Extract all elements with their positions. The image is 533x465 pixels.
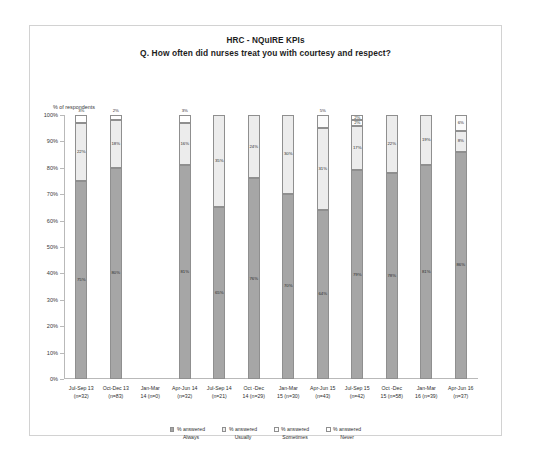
bar-segment-always[interactable]: 81% — [420, 165, 432, 379]
x-axis-category-label: Oct-Dec 13(n=83) — [99, 384, 134, 400]
y-axis-title: % of respondents — [44, 104, 104, 112]
bar-slot: 2%2%17%79% — [340, 115, 375, 379]
bar-segment-usually[interactable]: 22% — [75, 123, 87, 181]
bar-segment-label: 31% — [318, 167, 327, 171]
bar-segment-label: 24% — [249, 145, 258, 149]
bar-segment-label: 2% — [354, 121, 360, 125]
bar-segment-label: 8% — [458, 139, 464, 143]
bar-segment-label: 3% — [78, 109, 84, 113]
legend-label: % answeredAlways — [177, 426, 205, 441]
bar-slot: 24%76% — [237, 115, 272, 379]
bar-segment-always[interactable]: 80% — [110, 168, 122, 379]
bar-segment-always[interactable]: 75% — [75, 181, 87, 379]
bar-segment-label: 19% — [422, 138, 431, 142]
bar-segment-usually[interactable]: 8% — [455, 131, 467, 152]
bar-segment-label: 5% — [320, 109, 326, 113]
bar-segment-usually[interactable]: 30% — [282, 115, 294, 194]
x-axis-category-label: Jan-Mar16 (n=39) — [409, 384, 444, 400]
y-axis-tick-label: 90% — [47, 138, 58, 144]
bar-segment-always[interactable]: 86% — [455, 152, 467, 379]
bar-segment-label: 86% — [456, 263, 465, 267]
legend-item-usually[interactable]: % answeredUsually — [222, 426, 257, 441]
bar-segment-label: 35% — [215, 159, 224, 163]
plot-area: 0%10%20%30%40%50%60%70%80%90%100% 22%75%… — [64, 115, 478, 379]
y-axis-tick-label: 0% — [50, 376, 58, 382]
bar-segment-label: 81% — [422, 270, 431, 274]
chart-frame: HRC - NQuIRE KPIs Q. How often did nurse… — [29, 25, 502, 436]
bar-segment-sometimes[interactable] — [317, 115, 329, 128]
bar-slot: 6%8%86% — [444, 115, 479, 379]
stacked-bar[interactable]: 6%8%86% — [455, 115, 467, 379]
bar-segment-always[interactable]: 70% — [282, 194, 294, 379]
bar-segment-label: 3% — [182, 109, 188, 113]
legend-swatch-usually-icon — [222, 427, 227, 432]
stacked-bar[interactable]: 35%65% — [213, 115, 225, 379]
bar-segment-sometimes[interactable]: 6% — [455, 115, 467, 131]
bar-segment-label: 17% — [353, 146, 362, 150]
bar-segment-usually[interactable]: 35% — [213, 115, 225, 207]
x-axis-category-label: Apr-Jun 15(n=43) — [306, 384, 341, 400]
bar-segment-label: 81% — [180, 270, 189, 274]
bar-segment-usually[interactable]: 17% — [351, 126, 363, 171]
bar-segment-label: 76% — [249, 277, 258, 281]
legend-item-sometimes[interactable]: % answeredSometimes — [274, 426, 309, 441]
chart-title-block: HRC - NQuIRE KPIs Q. How often did nurse… — [30, 34, 501, 60]
bar-slot: 35%65% — [202, 115, 237, 379]
legend-label: % answeredUsually — [229, 426, 257, 441]
stacked-bar[interactable]: 22%78% — [386, 115, 398, 379]
bar-segment-label: 75% — [77, 278, 86, 282]
bar-slot — [133, 115, 168, 379]
stacked-bar[interactable]: 18%80%2% — [110, 115, 122, 379]
stacked-bar[interactable]: 19%81% — [420, 115, 432, 379]
bar-segment-label: 79% — [353, 273, 362, 277]
legend-item-always[interactable]: % answeredAlways — [170, 426, 205, 441]
bar-segment-label: 65% — [215, 291, 224, 295]
stacked-bar[interactable]: 31%64%5% — [317, 115, 329, 379]
bar-segment-label: 64% — [318, 292, 327, 296]
bar-segment-always[interactable]: 65% — [213, 207, 225, 379]
bar-segment-always[interactable]: 64% — [317, 210, 329, 379]
y-axis-tick-label: 80% — [47, 165, 58, 171]
bar-segment-label: 78% — [387, 274, 396, 278]
y-axis-tick-label: 100% — [44, 112, 58, 118]
bar-segment-label: 22% — [387, 142, 396, 146]
x-axis-category-label: Apr-Jun 16(n=37) — [444, 384, 479, 400]
y-axis-tick-label: 10% — [47, 350, 58, 356]
bar-segment-always[interactable]: 81% — [179, 165, 191, 379]
x-axis-category-label: Oct -Dec15 (n=58) — [375, 384, 410, 400]
y-axis-tick-label: 60% — [47, 218, 58, 224]
bar-segment-always[interactable]: 76% — [248, 178, 260, 379]
y-axis-tick-label: 40% — [47, 270, 58, 276]
bar-segment-usually[interactable]: 24% — [248, 115, 260, 178]
stacked-bar[interactable]: 22%75%3% — [75, 115, 87, 379]
bar-segment-label: 30% — [284, 152, 293, 156]
bar-segment-always[interactable]: 79% — [351, 170, 363, 379]
x-axis-category-label: Jul-Sep 15(n=42) — [340, 384, 375, 400]
bar-slot: 16%81%3% — [168, 115, 203, 379]
bar-segment-usually[interactable]: 19% — [420, 115, 432, 165]
x-axis-category-label: Jul-Sep 14(n=21) — [202, 384, 237, 400]
bar-segment-never[interactable] — [179, 115, 191, 123]
bar-segment-always[interactable]: 78% — [386, 173, 398, 379]
bar-segment-usually[interactable]: 18% — [110, 120, 122, 168]
bar-segment-usually[interactable]: 16% — [179, 123, 191, 165]
stacked-bar[interactable]: 2%2%17%79% — [351, 115, 363, 379]
bar-segment-usually[interactable]: 31% — [317, 128, 329, 210]
legend-swatch-never-icon — [326, 427, 331, 432]
bar-slot: 18%80%2% — [99, 115, 134, 379]
stacked-bar[interactable] — [144, 115, 156, 379]
legend-swatch-always-icon — [170, 427, 175, 432]
x-axis-category-label: Jan-Mar14 (n=0) — [133, 384, 168, 400]
stacked-bar[interactable]: 24%76% — [248, 115, 260, 379]
chart-title-question: Q. How often did nurses treat you with c… — [30, 47, 501, 60]
legend-item-never[interactable]: % answeredNever — [326, 426, 361, 441]
legend-label: % answeredSometimes — [281, 426, 309, 441]
stacked-bar[interactable]: 30%70% — [282, 115, 294, 379]
bar-segment-never[interactable] — [75, 115, 87, 123]
stacked-bar[interactable]: 16%81%3% — [179, 115, 191, 379]
bar-segment-usually[interactable]: 22% — [386, 115, 398, 173]
bar-slot: 19%81% — [409, 115, 444, 379]
chart-title-primary: HRC - NQuIRE KPIs — [30, 34, 501, 47]
bar-segment-label: 2% — [113, 109, 119, 113]
bar-segment-label: 22% — [77, 150, 86, 154]
